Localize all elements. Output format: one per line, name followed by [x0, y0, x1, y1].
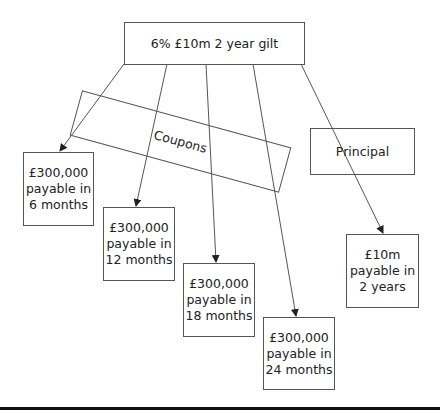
cashflow-amount: £300,000: [266, 330, 333, 346]
cashflow-box-24-months: £300,000 payable in 24 months: [263, 317, 335, 390]
cashflow-amount: £10m: [350, 247, 415, 263]
cashflow-payable: payable in: [186, 292, 253, 308]
cashflow-when: 24 months: [266, 362, 333, 378]
coupons-label: Coupons: [152, 127, 208, 156]
principal-box-2-years: £10m payable in 2 years: [346, 234, 419, 308]
cashflow-payable: payable in: [350, 263, 415, 279]
cashflow-payable: payable in: [266, 346, 333, 362]
cashflow-when: 2 years: [350, 279, 415, 295]
principal-label: Principal: [336, 144, 389, 160]
cashflow-when: 6 months: [26, 197, 91, 213]
cashflow-box-6-months: £300,000 payable in 6 months: [23, 152, 94, 226]
cashflow-when: 18 months: [186, 308, 253, 324]
cashflow-when: 12 months: [106, 252, 173, 268]
principal-group-box: Principal: [310, 128, 415, 175]
cashflow-payable: payable in: [106, 236, 173, 252]
cashflow-amount: £300,000: [26, 165, 91, 181]
root-gilt-box: 6% £10m 2 year gilt: [124, 22, 305, 65]
cashflow-amount: £300,000: [186, 276, 253, 292]
cashflow-amount: £300,000: [106, 220, 173, 236]
cashflow-payable: payable in: [26, 181, 91, 197]
cashflow-box-18-months: £300,000 payable in 18 months: [183, 263, 255, 337]
root-gilt-label: 6% £10m 2 year gilt: [151, 36, 278, 52]
cashflow-box-12-months: £300,000 payable in 12 months: [103, 207, 175, 281]
